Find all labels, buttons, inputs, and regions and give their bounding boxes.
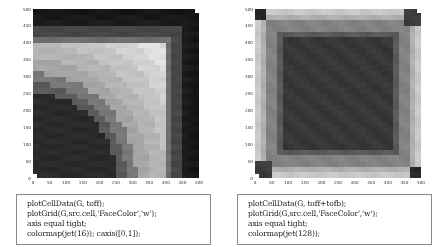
x-tick-label: 50 bbox=[43, 180, 57, 185]
y-tick-label: 50 bbox=[239, 159, 253, 164]
code-line: axis equal tight; bbox=[248, 219, 431, 229]
y-tick-label: 200 bbox=[17, 108, 31, 113]
x-tick-label: 150 bbox=[298, 180, 312, 185]
x-tick-label: 100 bbox=[59, 180, 73, 185]
x-tick-label: 450 bbox=[397, 180, 411, 185]
sink-cell-marker bbox=[195, 9, 199, 13]
y-tick-label: 400 bbox=[239, 40, 253, 45]
code-line: colormap(jet(128)); bbox=[248, 229, 431, 239]
x-tick-label: 350 bbox=[364, 180, 378, 185]
heatmap-plot-toff bbox=[33, 9, 199, 178]
x-tick-label: 500 bbox=[192, 180, 206, 185]
x-tick-label: 500 bbox=[414, 180, 428, 185]
heatmap-plot-toff-tofb bbox=[255, 9, 421, 178]
y-tick-label: 150 bbox=[239, 125, 253, 130]
y-tick-label: 100 bbox=[239, 142, 253, 147]
x-tick-label: 200 bbox=[92, 180, 106, 185]
code-listing: plotCellData(G, toff+tofb); plotGrid(G,s… bbox=[237, 194, 432, 245]
y-tick-label: 300 bbox=[239, 74, 253, 79]
y-tick-label: 100 bbox=[17, 142, 31, 147]
y-tick-label: 150 bbox=[17, 125, 31, 130]
y-tick-label: 350 bbox=[239, 57, 253, 62]
y-tick-label: 450 bbox=[17, 23, 31, 28]
y-tick-label: 250 bbox=[17, 91, 31, 96]
x-tick-label: 100 bbox=[281, 180, 295, 185]
x-tick-label: 200 bbox=[314, 180, 328, 185]
figure-right: 050100150200250300350400450500 050100150… bbox=[222, 0, 444, 247]
y-tick-label: 400 bbox=[17, 40, 31, 45]
code-line: plotGrid(G,src.cell,'FaceColor','w'); bbox=[27, 209, 210, 219]
x-tick-label: 0 bbox=[26, 180, 40, 185]
y-tick-label: 200 bbox=[239, 108, 253, 113]
x-tick-label: 0 bbox=[248, 180, 262, 185]
code-line: colormap(jet(16)); caxis([0,1]); bbox=[27, 229, 210, 239]
y-tick-label: 300 bbox=[17, 74, 31, 79]
code-line: plotCellData(G, toff); bbox=[27, 199, 210, 209]
y-tick-label: 50 bbox=[17, 159, 31, 164]
source-cell-marker bbox=[33, 174, 37, 178]
y-tick-label: 450 bbox=[239, 23, 253, 28]
y-tick-label: 250 bbox=[239, 91, 253, 96]
code-listing: plotCellData(G, toff); plotGrid(G,src.ce… bbox=[16, 194, 211, 245]
x-tick-label: 300 bbox=[348, 180, 362, 185]
code-line: plotCellData(G, toff+tofb); bbox=[248, 199, 431, 209]
code-line: axis equal tight; bbox=[27, 219, 210, 229]
heatmap-canvas bbox=[255, 9, 421, 178]
x-tick-label: 400 bbox=[381, 180, 395, 185]
y-tick-label: 500 bbox=[239, 7, 253, 12]
x-tick-label: 50 bbox=[265, 180, 279, 185]
x-tick-label: 450 bbox=[175, 180, 189, 185]
x-tick-label: 150 bbox=[76, 180, 90, 185]
code-line: plotGrid(G,src.cell,'FaceColor','w'); bbox=[248, 209, 431, 219]
source-cell-marker bbox=[255, 174, 259, 178]
y-tick-label: 350 bbox=[17, 57, 31, 62]
x-tick-label: 350 bbox=[142, 180, 156, 185]
x-tick-label: 300 bbox=[126, 180, 140, 185]
x-tick-label: 400 bbox=[159, 180, 173, 185]
figure-left: 050100150200250300350400450500 050100150… bbox=[0, 0, 222, 247]
x-tick-label: 250 bbox=[109, 180, 123, 185]
sink-cell-marker bbox=[417, 9, 421, 13]
x-tick-label: 250 bbox=[331, 180, 345, 185]
heatmap-canvas bbox=[33, 9, 199, 178]
y-tick-label: 500 bbox=[17, 7, 31, 12]
